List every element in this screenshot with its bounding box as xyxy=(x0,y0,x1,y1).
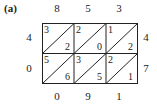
cell-r1c2-tens: 2 xyxy=(76,25,81,35)
cell-r1c3-ones: 2 xyxy=(128,42,133,52)
cell-r1c2-ones: 0 xyxy=(97,42,102,52)
cell-r1c1-tens: 3 xyxy=(44,25,49,35)
cell-r2c1-ones: 6 xyxy=(65,72,70,82)
cell-r1c3-tens: 1 xyxy=(108,25,113,35)
cell-r2c3-ones: 1 xyxy=(128,72,133,82)
cell-r2c3-tens: 2 xyxy=(108,55,113,65)
cell-r2c2-ones: 5 xyxy=(97,72,102,82)
lattice-grid xyxy=(0,0,157,105)
cell-r1c1-ones: 2 xyxy=(65,42,70,52)
cell-r2c2-tens: 3 xyxy=(76,55,81,65)
cell-r2c1-tens: 5 xyxy=(44,55,49,65)
